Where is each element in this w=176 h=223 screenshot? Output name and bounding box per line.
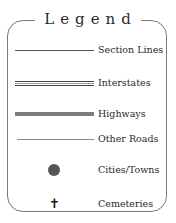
cemetery-cross-icon: ✝ xyxy=(14,197,94,211)
interstate-line-icon xyxy=(14,76,94,90)
legend-label: Cities/Towns xyxy=(98,163,159,177)
legend-item-cities-towns: Cities/Towns xyxy=(14,163,172,177)
legend-item-other-roads: Other Roads xyxy=(14,132,172,146)
legend-item-cemeteries: ✝ Cemeteries xyxy=(14,197,172,211)
legend-label: Section Lines xyxy=(98,43,163,57)
highway-line-icon xyxy=(14,107,94,121)
legend-label: Highways xyxy=(98,107,146,121)
legend-label: Other Roads xyxy=(98,132,158,146)
legend-item-highways: Highways xyxy=(14,107,172,121)
legend-title: Legend xyxy=(0,9,176,29)
legend-label: Cemeteries xyxy=(98,197,153,211)
other-road-line-icon xyxy=(14,132,94,146)
section-line-icon xyxy=(14,43,94,57)
legend-label: Interstates xyxy=(98,76,151,90)
legend-item-interstates: Interstates xyxy=(14,76,172,90)
legend-item-section-lines: Section Lines xyxy=(14,43,172,57)
city-dot-icon xyxy=(14,163,94,177)
